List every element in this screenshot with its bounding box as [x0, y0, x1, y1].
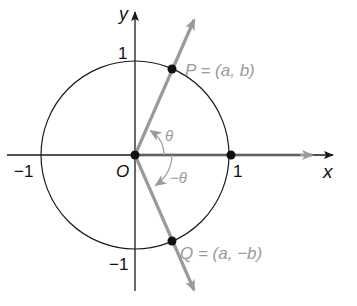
x-axis-label: x	[322, 161, 334, 182]
unit-circle-diagram: y x 1 −1 −1 1 O P = (a, b) Q = (a, −b) θ…	[0, 0, 357, 306]
origin-label: O	[116, 162, 129, 181]
angle-arc-theta	[151, 131, 164, 155]
point-one-zero	[227, 151, 236, 160]
angle-theta-label: θ	[165, 127, 173, 144]
point-q-label: Q = (a, −b)	[180, 244, 262, 263]
y-axis-label: y	[117, 4, 129, 24]
point-origin	[131, 151, 140, 160]
tick-label-y-pos: 1	[118, 44, 127, 63]
tick-label-x-neg: −1	[14, 162, 33, 181]
tick-label-x-pos: 1	[233, 162, 242, 181]
point-q	[168, 237, 177, 246]
angle-neg-theta-label: −θ	[170, 169, 187, 186]
tick-label-y-neg: −1	[109, 255, 128, 274]
point-p	[168, 65, 177, 74]
point-p-label: P = (a, b)	[185, 61, 255, 80]
